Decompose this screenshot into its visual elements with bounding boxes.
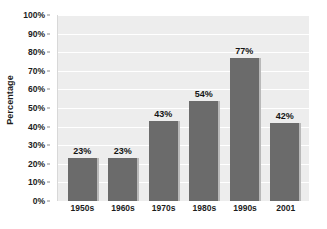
y-axis-title: Percentage bbox=[0, 0, 20, 200]
bar-value-label-1980s: 54% bbox=[195, 89, 213, 99]
bar-slot-1960s: 23% bbox=[104, 15, 145, 201]
y-axis-tick-0: 0% bbox=[33, 196, 45, 206]
bar-1970s[interactable]: 43% bbox=[149, 121, 180, 201]
bar-value-label-2001: 42% bbox=[276, 111, 294, 121]
y-axis-tick-70: 70% bbox=[28, 66, 45, 76]
x-axis-tick-1990s: 1990s bbox=[225, 203, 266, 223]
bar-slot-2001: 42% bbox=[266, 15, 307, 201]
y-axis-tick-60: 60% bbox=[28, 84, 45, 94]
x-axis-tick-1950s: 1950s bbox=[62, 203, 103, 223]
gridline-0 bbox=[58, 201, 309, 202]
x-axis-tick-2001: 2001 bbox=[265, 203, 306, 223]
y-axis-tickmark-30 bbox=[47, 145, 50, 146]
y-axis-tickmark-40 bbox=[47, 126, 50, 127]
y-axis-tick-30: 30% bbox=[28, 140, 45, 150]
bar-chart-figure: Percentage 0%10%20%30%40%50%60%70%80%90%… bbox=[0, 0, 327, 229]
y-axis-tick-50: 50% bbox=[28, 103, 45, 113]
x-axis-tick-1970s: 1970s bbox=[143, 203, 184, 223]
y-axis-tickmark-80 bbox=[47, 52, 50, 53]
y-axis-tickmark-0 bbox=[47, 201, 50, 202]
y-axis-tickmark-60 bbox=[47, 89, 50, 90]
x-axis-tick-labels: 1950s1960s1970s1980s1990s2001 bbox=[57, 203, 309, 223]
y-axis-tickmark-10 bbox=[47, 182, 50, 183]
x-axis-tick-1980s: 1980s bbox=[184, 203, 225, 223]
y-axis-tickmark-50 bbox=[47, 108, 50, 109]
bar-value-label-1970s: 43% bbox=[154, 109, 172, 119]
y-axis-tickmark-70 bbox=[47, 70, 50, 71]
y-axis-tickmark-100 bbox=[47, 15, 50, 16]
y-axis-tick-20: 20% bbox=[28, 159, 45, 169]
bar-1980s[interactable]: 54% bbox=[189, 101, 220, 201]
bar-1990s[interactable]: 77% bbox=[230, 58, 261, 201]
bar-slot-1980s: 54% bbox=[185, 15, 226, 201]
y-axis-tickmark-90 bbox=[47, 33, 50, 34]
x-axis-tick-1960s: 1960s bbox=[103, 203, 144, 223]
y-axis-tick-90: 90% bbox=[28, 29, 45, 39]
bar-slot-1970s: 43% bbox=[144, 15, 185, 201]
y-axis-tickmark-20 bbox=[47, 163, 50, 164]
y-axis-tick-80: 80% bbox=[28, 47, 45, 57]
bar-value-label-1960s: 23% bbox=[114, 146, 132, 156]
y-axis-tick-10: 10% bbox=[28, 177, 45, 187]
bars-container: 23%23%43%54%77%42% bbox=[58, 15, 309, 201]
bar-1950s[interactable]: 23% bbox=[68, 158, 99, 201]
bar-2001[interactable]: 42% bbox=[270, 123, 301, 201]
y-axis-tick-100: 100% bbox=[23, 10, 45, 20]
bar-value-label-1950s: 23% bbox=[73, 146, 91, 156]
bar-value-label-1990s: 77% bbox=[235, 46, 253, 56]
bar-1960s[interactable]: 23% bbox=[108, 158, 139, 201]
plot-area: 23%23%43%54%77%42% bbox=[57, 15, 309, 201]
y-axis-title-label: Percentage bbox=[5, 75, 15, 125]
bar-slot-1950s: 23% bbox=[63, 15, 104, 201]
y-axis-tick-labels: 0%10%20%30%40%50%60%70%80%90%100% bbox=[19, 15, 51, 201]
bar-slot-1990s: 77% bbox=[225, 15, 266, 201]
y-axis-tick-40: 40% bbox=[28, 122, 45, 132]
